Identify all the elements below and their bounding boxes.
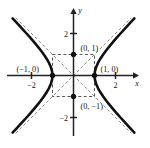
hyperbola-plot: −222−2xy(0, 1)(0, −1)(1, 0)(−1, 0) <box>0 0 150 148</box>
x-tick-label-2: 2 <box>114 81 118 90</box>
y-tick-label-2: 2 <box>64 30 68 39</box>
point-0-neg1-label: (0, −1) <box>81 102 104 111</box>
point-0-1-label: (0, 1) <box>81 44 99 53</box>
y-tick-label--2: −2 <box>59 114 68 123</box>
hyperbola-figure: −222−2xy(0, 1)(0, −1)(1, 0)(−1, 0) <box>0 0 150 148</box>
y-axis-label: y <box>77 6 82 15</box>
point-0-neg1 <box>71 94 76 99</box>
point-0-1 <box>71 52 76 57</box>
point-1-0-label: (1, 0) <box>101 65 119 74</box>
point-1-0 <box>92 73 97 78</box>
x-tick-label--2: −2 <box>27 81 36 90</box>
point-neg1-0 <box>50 73 55 78</box>
x-axis-label: x <box>134 79 139 88</box>
point-neg1-0-label: (−1, 0) <box>17 65 40 74</box>
